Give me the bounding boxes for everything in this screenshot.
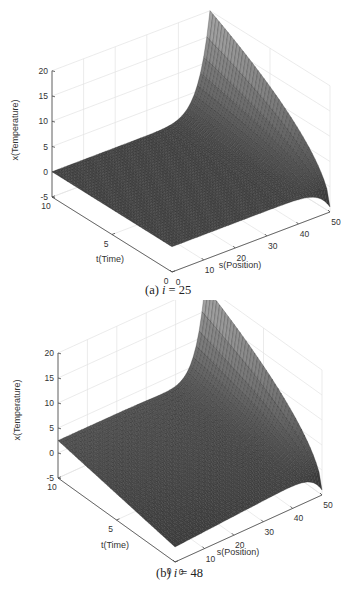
caption-a: (a) i = 25 bbox=[145, 283, 191, 298]
z-tick-label: 20 bbox=[39, 66, 49, 76]
s-tick-label: 10 bbox=[205, 265, 215, 275]
z-tick-label: 0 bbox=[49, 448, 54, 458]
surface-plot-a: -505101520051001020304050x(Temperature)t… bbox=[0, 0, 362, 300]
z-tick-label: 15 bbox=[45, 373, 55, 383]
z-axis-label: x(Temperature) bbox=[10, 99, 20, 160]
s-tick-label: 50 bbox=[331, 217, 341, 227]
t-tick bbox=[117, 519, 120, 520]
gridline bbox=[52, 11, 210, 71]
z-tick bbox=[58, 403, 61, 404]
s-tick-label: 10 bbox=[206, 554, 216, 564]
t-tick-label: 5 bbox=[104, 239, 109, 249]
t-tick bbox=[58, 477, 61, 478]
s-tick-label: 30 bbox=[268, 241, 278, 251]
caption-a-prefix: (a) bbox=[145, 283, 159, 297]
s-tick-label: 40 bbox=[300, 229, 310, 239]
z-tick-label: 5 bbox=[43, 142, 48, 152]
caption-a-var: i bbox=[162, 283, 165, 297]
caption-a-eq: = 25 bbox=[169, 283, 192, 297]
gridline bbox=[58, 300, 205, 353]
t-tick-label: 10 bbox=[41, 201, 51, 211]
surface bbox=[58, 300, 322, 547]
t-tick-label: 5 bbox=[108, 524, 113, 534]
s-axis-label: s(Position) bbox=[217, 547, 260, 557]
z-tick bbox=[52, 71, 55, 72]
z-tick-label: 0 bbox=[43, 167, 48, 177]
s-tick-label: 40 bbox=[294, 513, 304, 523]
z-axis-label: x(Temperature) bbox=[12, 379, 22, 440]
t-tick bbox=[52, 196, 55, 197]
z-tick bbox=[52, 121, 55, 122]
caption-b: (b) i = 48 bbox=[156, 566, 203, 581]
z-tick-label: 5 bbox=[49, 423, 54, 433]
t-tick-label: 10 bbox=[47, 482, 57, 492]
panel-a: -505101520051001020304050x(Temperature)t… bbox=[0, 0, 362, 300]
caption-b-prefix: (b) bbox=[156, 566, 171, 580]
z-tick-label: 10 bbox=[45, 398, 55, 408]
z-tick-label: 15 bbox=[39, 91, 49, 101]
t-axis-label: t(Time) bbox=[96, 254, 124, 264]
z-tick bbox=[58, 378, 61, 379]
s-tick-label: 50 bbox=[323, 500, 333, 510]
caption-b-eq: = 48 bbox=[180, 566, 203, 580]
gridline bbox=[52, 36, 210, 96]
z-tick bbox=[58, 353, 61, 354]
z-tick-label: 10 bbox=[39, 116, 49, 126]
surface bbox=[52, 11, 330, 247]
t-tick bbox=[112, 233, 115, 234]
z-tick bbox=[58, 453, 61, 454]
z-tick-label: 20 bbox=[45, 348, 55, 358]
s-axis-label: s(Position) bbox=[219, 260, 262, 270]
z-tick bbox=[52, 147, 55, 148]
s-tick-label: 30 bbox=[264, 527, 274, 537]
panel-b: -505101520051001020304050x(Temperature)t… bbox=[0, 300, 362, 589]
gridline bbox=[58, 311, 205, 378]
z-tick bbox=[52, 96, 55, 97]
z-tick bbox=[58, 428, 61, 429]
surface-plot-b: -505101520051001020304050x(Temperature)t… bbox=[0, 300, 362, 589]
caption-b-var: i bbox=[174, 566, 177, 580]
t-axis-label: t(Time) bbox=[101, 540, 129, 550]
